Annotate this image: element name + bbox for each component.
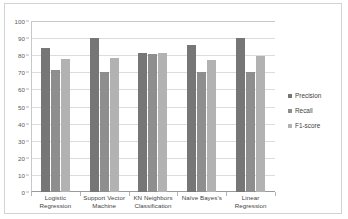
legend-label: Recall (295, 107, 313, 114)
x-axis-tick-mark (275, 192, 276, 196)
x-axis-label-line: Linear Regression (227, 194, 275, 211)
y-axis-tick-label: 10 (18, 171, 25, 178)
chart-legend: PrecisionRecallF1-score (288, 88, 342, 133)
bar-group (187, 21, 216, 192)
y-axis-tick-mark (26, 106, 29, 107)
chart-container: 1009080706050403020100 LogisticRegressio… (4, 3, 342, 214)
bar-precision (41, 48, 50, 192)
y-axis-tick-label: 70 (18, 69, 25, 76)
bar-recall (197, 72, 206, 192)
legend-label: Precision (295, 92, 321, 99)
y-axis-tick-mark (26, 38, 29, 39)
y-axis-tick-mark (26, 89, 29, 90)
x-axis-label-line: Support Vector (80, 194, 128, 202)
bar-f1-score (158, 53, 167, 192)
x-axis-category-label: Naïve Bayes's (178, 194, 226, 216)
bar-f1-score (110, 58, 119, 192)
bar-group (41, 21, 70, 192)
x-axis-category-label: Support VectorMachine (80, 194, 128, 216)
y-axis-tick-mark (26, 192, 29, 193)
legend-swatch-icon (288, 94, 292, 98)
y-axis-tick-mark (26, 157, 29, 158)
y-axis-tick-label: 40 (18, 120, 25, 127)
legend-swatch-icon (288, 124, 292, 128)
bar-recall (100, 72, 109, 192)
bar-recall (148, 54, 157, 192)
bar-precision (187, 45, 196, 192)
bar-precision (138, 53, 147, 192)
x-axis-category-label: KN NeighborsClassification (129, 194, 177, 216)
y-axis-tick-label: 90 (18, 35, 25, 42)
bar-recall (246, 72, 255, 192)
plot-area (31, 21, 275, 192)
bar-f1-score (61, 59, 70, 192)
x-axis-label-line: Classification (129, 202, 177, 210)
y-axis-tick-label: 80 (18, 52, 25, 59)
x-axis-tick-mark (129, 192, 130, 196)
bar-group (236, 21, 265, 192)
legend-item-recall[interactable]: Recall (288, 103, 342, 118)
x-axis-tick-mark (177, 192, 178, 196)
x-axis-category-label: LogisticRegression (31, 194, 79, 216)
y-axis-tick-mark (26, 21, 29, 22)
bar-f1-score (256, 56, 265, 192)
y-axis-tick-label: 60 (18, 86, 25, 93)
y-axis-tick-mark (26, 72, 29, 73)
bar-recall (51, 70, 60, 192)
x-axis-tick-mark (226, 192, 227, 196)
x-axis-label-line: Naïve Bayes's (178, 194, 226, 202)
legend-item-f1-score[interactable]: F1-score (288, 118, 342, 133)
y-axis-tick-label: 20 (18, 154, 25, 161)
y-axis-tick-label: 100 (14, 18, 25, 25)
y-axis-tick-label: 0 (21, 189, 25, 196)
bar-precision (90, 38, 99, 192)
y-axis-tick-label: 30 (18, 137, 25, 144)
y-axis-tick-label: 50 (18, 103, 25, 110)
y-axis-tick-mark (26, 140, 29, 141)
y-axis-tick-mark (26, 123, 29, 124)
bar-groups (31, 21, 275, 192)
x-axis-label-line: Machine (80, 202, 128, 210)
x-axis-label-line: Regression (31, 202, 79, 210)
y-axis-tick-mark (26, 174, 29, 175)
legend-label: F1-score (295, 122, 320, 129)
x-axis-label-line: KN Neighbors (129, 194, 177, 202)
bar-group (138, 21, 167, 192)
y-axis-tick-mark (26, 55, 29, 56)
bar-precision (236, 38, 245, 192)
x-axis: LogisticRegressionSupport VectorMachineK… (31, 194, 275, 216)
x-axis-tick-mark (31, 192, 32, 196)
x-axis-category-label: Linear Regression (227, 194, 275, 216)
legend-item-precision[interactable]: Precision (288, 88, 342, 103)
x-axis-label-line: Logistic (31, 194, 79, 202)
bar-group (90, 21, 119, 192)
bar-f1-score (207, 60, 216, 192)
x-axis-tick-mark (80, 192, 81, 196)
y-axis: 1009080706050403020100 (5, 21, 29, 192)
legend-swatch-icon (288, 109, 292, 113)
